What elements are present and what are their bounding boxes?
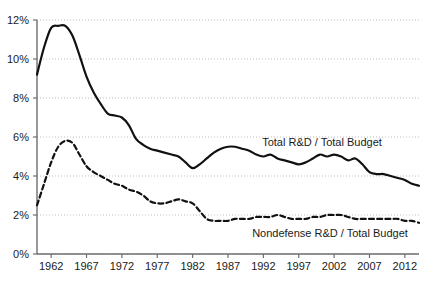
x-tick-label-2007: 2007 xyxy=(357,260,381,272)
x-tick-label-1962: 1962 xyxy=(39,260,63,272)
x-tick-label-1987: 1987 xyxy=(216,260,240,272)
x-tick-label-2012: 2012 xyxy=(393,260,417,272)
total-rd-label: Total R&D / Total Budget xyxy=(262,136,382,148)
y-tick-label-8%: 8% xyxy=(13,92,29,104)
line-chart: 0%2%4%6%8%10%12% 19621967197219771982198… xyxy=(0,0,432,285)
x-tick-label-1997: 1997 xyxy=(286,260,310,272)
x-tick-label-1977: 1977 xyxy=(145,260,169,272)
x-tick-label-1967: 1967 xyxy=(74,260,98,272)
x-tick-label-1972: 1972 xyxy=(110,260,134,272)
y-tick-label-2%: 2% xyxy=(13,209,29,221)
chart-container: 0%2%4%6%8%10%12% 19621967197219771982198… xyxy=(0,0,432,285)
x-tick-label-1992: 1992 xyxy=(251,260,275,272)
y-tick-label-12%: 12% xyxy=(7,14,29,26)
y-tick-label-4%: 4% xyxy=(13,170,29,182)
x-tick-label-1982: 1982 xyxy=(180,260,204,272)
x-tick-label-2002: 2002 xyxy=(322,260,346,272)
y-tick-label-0%: 0% xyxy=(13,248,29,260)
y-tick-label-10%: 10% xyxy=(7,53,29,65)
y-tick-label-6%: 6% xyxy=(13,131,29,143)
nondefense-rd-label: Nondefense R&D / Total Budget xyxy=(252,227,408,239)
